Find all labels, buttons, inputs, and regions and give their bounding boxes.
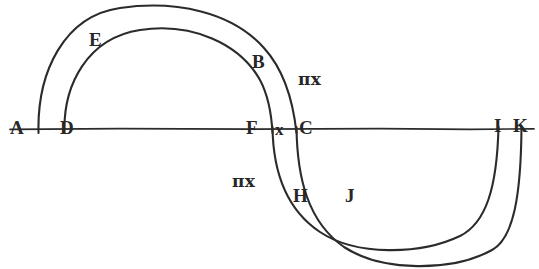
label-H: H bbox=[293, 186, 308, 205]
label-D: D bbox=[60, 118, 74, 137]
outer-lower-arc bbox=[297, 127, 522, 266]
label-C: C bbox=[299, 118, 313, 137]
label-A: A bbox=[10, 118, 24, 137]
diagram-canvas bbox=[0, 0, 539, 269]
label-x-axis-point: x bbox=[275, 120, 284, 139]
annotation-pix-upper: πx bbox=[298, 70, 321, 89]
label-J: J bbox=[345, 186, 355, 205]
label-F: F bbox=[246, 118, 258, 137]
label-B: B bbox=[252, 52, 265, 71]
label-I: I bbox=[494, 116, 502, 135]
label-E: E bbox=[89, 30, 102, 49]
annotation-pix-lower: πx bbox=[232, 172, 255, 191]
label-K: K bbox=[513, 116, 528, 135]
